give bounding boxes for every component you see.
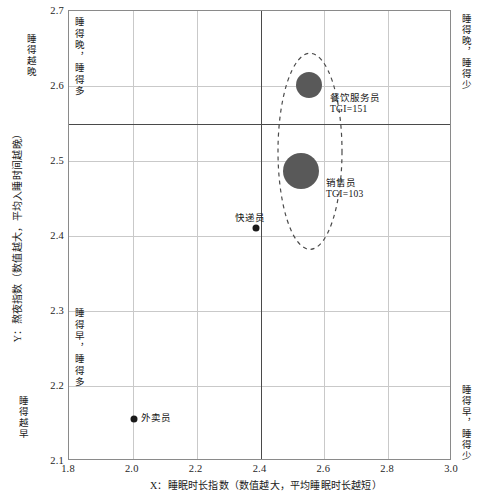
y-tick-2-3: 2.3 xyxy=(34,305,64,316)
caption-bottom-right-outer: 睡得早，睡得少 xyxy=(461,385,472,462)
point-label-canyin-fuwuyuan: 餐饮服务员 TGI=151 xyxy=(330,92,380,116)
gridline-y-2-5 xyxy=(69,161,450,162)
bubble-xiaoshouyuan[interactable] xyxy=(283,153,319,189)
plot-area: 睡得晚，睡得多 睡得早，睡得多 餐饮服务员 TGI=151 销售员 TGI=10… xyxy=(68,10,451,460)
point-label-waimaiyuan: 外卖员 xyxy=(141,412,171,424)
gridline-y-2-6 xyxy=(69,86,450,87)
bubble-chart: Y：熬夜指数（数值越大，平均入睡时间越晚） 睡得越晚 睡得越早 睡得晚，睡得少 … xyxy=(0,0,484,493)
bubble-canyin-fuwuyuan[interactable] xyxy=(296,72,322,98)
caption-bottom-left-outer: 睡得越早 xyxy=(18,396,29,440)
point-name-canyin-fuwuyuan: 餐饮服务员 xyxy=(330,92,380,103)
gridline-y-2-2 xyxy=(69,386,450,387)
x-tick-2-4: 2.4 xyxy=(240,463,280,474)
x-tick-2-8: 2.8 xyxy=(367,463,407,474)
dot-kuaidiyuan[interactable] xyxy=(252,224,259,231)
y-tick-labels: 2.7 2.6 2.5 2.4 2.3 2.2 2.1 xyxy=(30,10,64,460)
point-label-xiaoshouyuan: 销售员 TGI=103 xyxy=(326,177,364,201)
x-tick-3-0: 3.0 xyxy=(431,463,471,474)
y-tick-2-4: 2.4 xyxy=(34,230,64,241)
gridline-y-2-4 xyxy=(69,236,450,237)
x-axis-title: X：睡眠时长指数（数值越大，平均睡眠时长越短） xyxy=(150,477,484,492)
quadrant-caption-bottom-left: 睡得早，睡得多 xyxy=(74,308,85,389)
y-axis-title: Y：熬夜指数（数值越大，平均入睡时间越晚） xyxy=(9,116,24,356)
quadrant-caption-top-left: 睡得晚，睡得多 xyxy=(74,17,85,98)
gridline-x-2-8 xyxy=(388,11,389,459)
reference-line-vertical-x-2-4 xyxy=(261,11,262,459)
x-tick-2-0: 2.0 xyxy=(112,463,152,474)
point-tgi-xiaoshouyuan: TGI=103 xyxy=(326,189,364,201)
caption-top-right-outer: 睡得晚，睡得少 xyxy=(461,14,472,91)
x-tick-2-6: 2.6 xyxy=(303,463,343,474)
gridline-x-2-2 xyxy=(197,11,198,459)
y-tick-2-7: 2.7 xyxy=(34,5,64,16)
x-tick-labels: 1.8 2.0 2.2 2.4 2.6 2.8 3.0 xyxy=(68,463,451,477)
dot-waimaiyuan[interactable] xyxy=(130,416,137,423)
x-tick-1-8: 1.8 xyxy=(48,463,88,474)
gridline-y-2-3 xyxy=(69,311,450,312)
y-tick-2-2: 2.2 xyxy=(34,380,64,391)
point-tgi-canyin-fuwuyuan: TGI=151 xyxy=(330,104,380,116)
x-tick-2-2: 2.2 xyxy=(176,463,216,474)
reference-line-horizontal-y-2-55 xyxy=(69,124,450,125)
y-tick-2-5: 2.5 xyxy=(34,155,64,166)
gridline-x-2-6 xyxy=(324,11,325,459)
gridline-x-2-0 xyxy=(133,11,134,459)
point-name-xiaoshouyuan: 销售员 xyxy=(326,177,356,188)
y-tick-2-6: 2.6 xyxy=(34,80,64,91)
point-label-kuaidiyuan: 快递员 xyxy=(235,212,265,224)
